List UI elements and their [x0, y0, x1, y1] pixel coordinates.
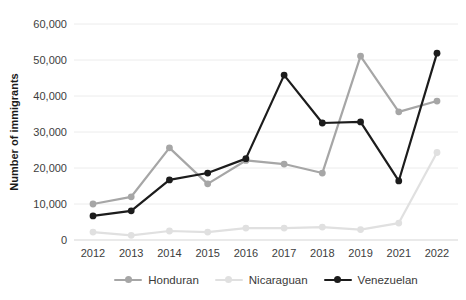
y-tick-label: 10,000 — [33, 198, 67, 210]
y-tick-label: 0 — [61, 234, 67, 246]
data-point-nicaraguan — [204, 229, 211, 236]
immigrants-line-chart: 010,00020,00030,00040,00050,00060,000201… — [0, 0, 466, 300]
legend-label-nicaraguan: Nicaraguan — [249, 274, 308, 286]
data-point-nicaraguan — [90, 229, 97, 236]
data-point-venezuelan — [242, 155, 249, 162]
data-point-nicaraguan — [434, 149, 441, 156]
data-point-nicaraguan — [319, 224, 326, 231]
data-point-venezuelan — [128, 207, 135, 214]
data-point-nicaraguan — [166, 228, 173, 235]
chart-legend: HonduranNicaraguanVenezuelan — [72, 269, 460, 291]
x-tick-label: 2012 — [81, 247, 105, 259]
y-tick-label: 60,000 — [33, 18, 67, 30]
x-tick-label: 2018 — [310, 247, 334, 259]
y-tick-label: 20,000 — [33, 162, 67, 174]
x-tick-label: 2021 — [387, 247, 411, 259]
series-line-nicaraguan — [93, 153, 437, 236]
data-point-honduran — [166, 144, 173, 151]
data-point-honduran — [434, 98, 441, 105]
data-point-nicaraguan — [357, 226, 364, 233]
x-tick-label: 2014 — [157, 247, 181, 259]
legend-item-venezuelan: Venezuelan — [324, 274, 418, 286]
data-point-venezuelan — [434, 50, 441, 57]
x-tick-label: 2013 — [119, 247, 143, 259]
x-tick-label: 2019 — [348, 247, 372, 259]
x-tick-label: 2022 — [425, 247, 449, 259]
legend-label-venezuelan: Venezuelan — [358, 274, 418, 286]
x-tick-label: 2016 — [234, 247, 258, 259]
data-point-venezuelan — [166, 176, 173, 183]
data-point-honduran — [204, 180, 211, 187]
data-point-venezuelan — [90, 212, 97, 219]
data-point-venezuelan — [281, 72, 288, 79]
data-point-nicaraguan — [128, 232, 135, 239]
legend-item-honduran: Honduran — [114, 274, 199, 286]
legend-label-honduran: Honduran — [148, 274, 199, 286]
data-point-honduran — [128, 193, 135, 200]
data-point-honduran — [281, 161, 288, 168]
legend-marker-nicaraguan — [215, 276, 243, 285]
data-point-venezuelan — [357, 119, 364, 126]
x-tick-label: 2017 — [272, 247, 296, 259]
legend-item-nicaraguan: Nicaraguan — [215, 274, 308, 286]
y-axis-title: Number of immigrants — [8, 73, 20, 190]
series-layer — [90, 50, 441, 239]
legend-marker-venezuelan — [324, 276, 352, 285]
data-point-honduran — [90, 201, 97, 208]
data-point-nicaraguan — [242, 225, 249, 232]
data-point-honduran — [319, 170, 326, 177]
chart-svg: 010,00020,00030,00040,00050,00060,000201… — [0, 0, 466, 300]
data-point-venezuelan — [319, 120, 326, 127]
data-point-venezuelan — [395, 178, 402, 185]
series-line-honduran — [93, 56, 437, 204]
data-point-nicaraguan — [281, 225, 288, 232]
x-tick-label: 2015 — [195, 247, 219, 259]
data-point-nicaraguan — [395, 220, 402, 227]
y-tick-label: 30,000 — [33, 126, 67, 138]
y-tick-label: 40,000 — [33, 90, 67, 102]
data-point-honduran — [357, 53, 364, 60]
y-tick-label: 50,000 — [33, 54, 67, 66]
series-line-venezuelan — [93, 53, 437, 216]
data-point-honduran — [395, 108, 402, 115]
legend-marker-honduran — [114, 276, 142, 285]
data-point-venezuelan — [204, 170, 211, 177]
